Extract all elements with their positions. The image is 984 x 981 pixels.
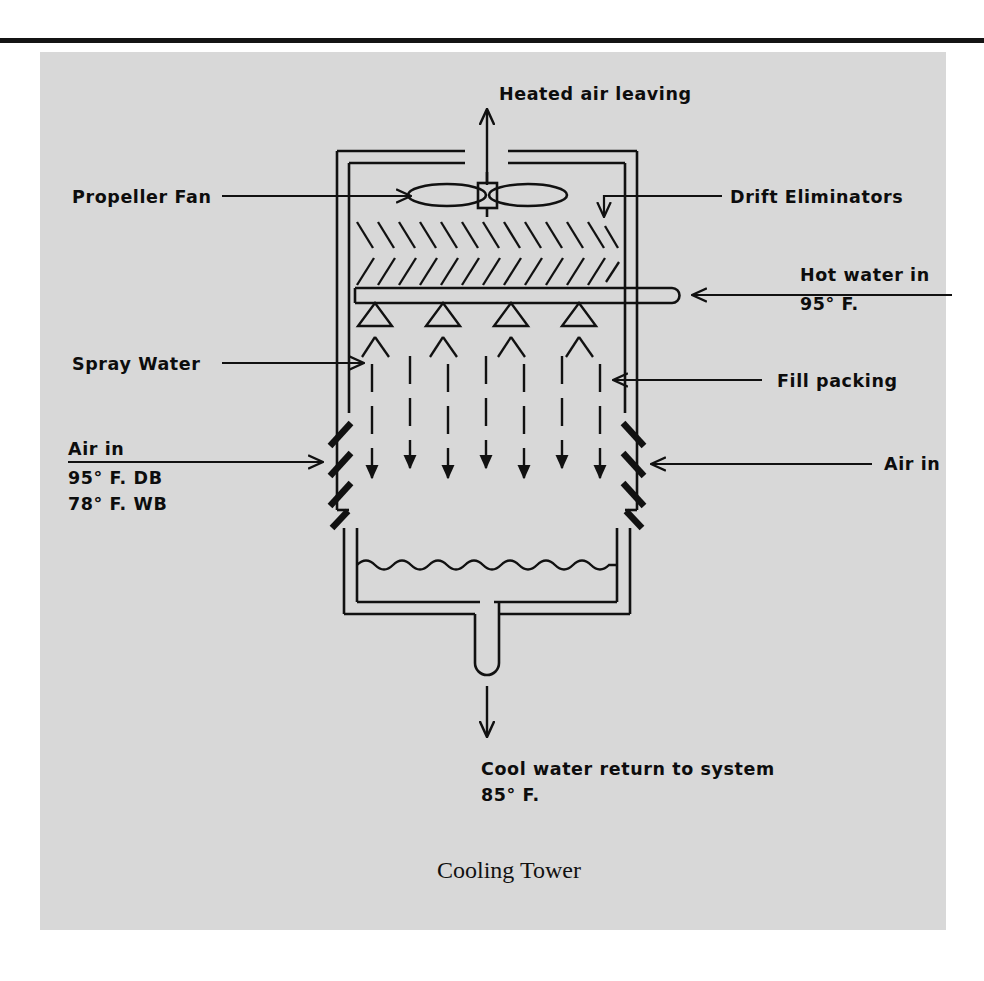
label-fill-packing: Fill packing: [777, 369, 898, 394]
figure-caption: Cooling Tower: [437, 857, 581, 884]
label-drift-eliminators: Drift Eliminators: [730, 185, 903, 210]
collection-basin: [344, 528, 630, 614]
label-spray-water: Spray Water: [72, 352, 201, 377]
drift-eliminator-row-upper: [357, 222, 618, 248]
drain-pipe: [475, 602, 499, 675]
spray-pattern: [362, 337, 593, 357]
spray-nozzles: [358, 303, 596, 326]
propeller-fan-icon: [408, 172, 567, 217]
label-air-in-left: Air in: [68, 437, 124, 462]
label-air-in-left-dry-bulb: 95° F. DB: [68, 466, 163, 491]
label-cool-water-return: Cool water return to system: [481, 757, 775, 782]
label-air-in-left-wet-bulb: 78° F. WB: [68, 492, 167, 517]
label-air-in-right: Air in: [884, 452, 940, 477]
label-hot-water-in: Hot water in: [800, 263, 930, 288]
falling-water-streams: [372, 356, 600, 478]
air-inlet-louvers-left: [330, 423, 351, 528]
label-cool-water-temperature: 85° F.: [481, 783, 540, 808]
air-inlet-louvers-right: [623, 423, 644, 528]
label-heated-air-leaving: Heated air leaving: [499, 82, 692, 107]
drift-eliminators-leader: [604, 196, 722, 216]
label-propeller-fan: Propeller Fan: [72, 185, 211, 210]
basin-water-line: [357, 561, 617, 570]
hot-water-header-pipe: [355, 288, 680, 303]
drift-eliminator-row-lower: [357, 258, 619, 285]
label-hot-water-temperature: 95° F.: [800, 292, 859, 317]
figure-page: Heated air leaving Propeller Fan Drift E…: [0, 0, 984, 981]
